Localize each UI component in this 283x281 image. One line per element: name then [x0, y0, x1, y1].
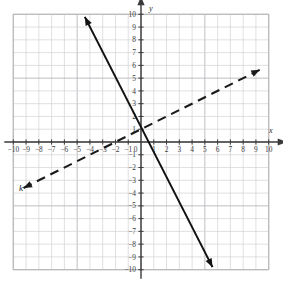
x-tick-label: 4 [190, 145, 194, 154]
y-tick-label: −1 [128, 150, 136, 159]
y-tick-label: −4 [128, 189, 136, 198]
y-tick-label: −7 [128, 227, 136, 236]
x-tick-label: −6 [60, 145, 68, 154]
y-tick-label: 4 [132, 87, 136, 96]
x-tick-label: 7 [229, 145, 233, 154]
coordinate-plane-svg: −10−9−8−7−6−5−4−3−2−1012345678910 109876… [0, 0, 283, 281]
y-tick-label: −3 [128, 176, 136, 185]
x-tick-label: 6 [216, 145, 220, 154]
x-tick-label: −5 [73, 145, 81, 154]
x-tick-label: 2 [165, 145, 169, 154]
x-tick-label: −2 [112, 145, 120, 154]
x-tick-label: 9 [254, 145, 258, 154]
y-tick-label: −9 [128, 253, 136, 262]
y-tick-label: −2 [128, 163, 136, 172]
x-tick-label: −7 [48, 145, 56, 154]
x-tick-label: 5 [203, 145, 207, 154]
y-tick-label: −10 [124, 265, 136, 274]
y-tick-label: −5 [128, 201, 136, 210]
y-tick-label: 5 [132, 74, 136, 83]
y-tick-label: −6 [128, 214, 136, 223]
x-tick-label: −10 [8, 145, 20, 154]
x-tick-label: 8 [241, 145, 245, 154]
x-tick-label: 10 [265, 145, 273, 154]
y-tick-label: 8 [132, 35, 136, 44]
x-tick-label: −8 [35, 145, 43, 154]
y-tick-label: 7 [132, 48, 136, 57]
y-tick-label: 6 [132, 61, 136, 70]
y-tick-label: −8 [128, 240, 136, 249]
x-tick-label: 3 [177, 145, 181, 154]
y-tick-label: 10 [129, 10, 137, 19]
y-tick-label: 9 [132, 23, 136, 32]
y-tick-label: 3 [132, 99, 136, 108]
x-tick-label: −9 [22, 145, 30, 154]
coordinate-graph: −10−9−8−7−6−5−4−3−2−1012345678910 109876… [0, 0, 283, 281]
y-axis-label: y [148, 4, 153, 13]
x-axis-label: x [268, 126, 273, 135]
